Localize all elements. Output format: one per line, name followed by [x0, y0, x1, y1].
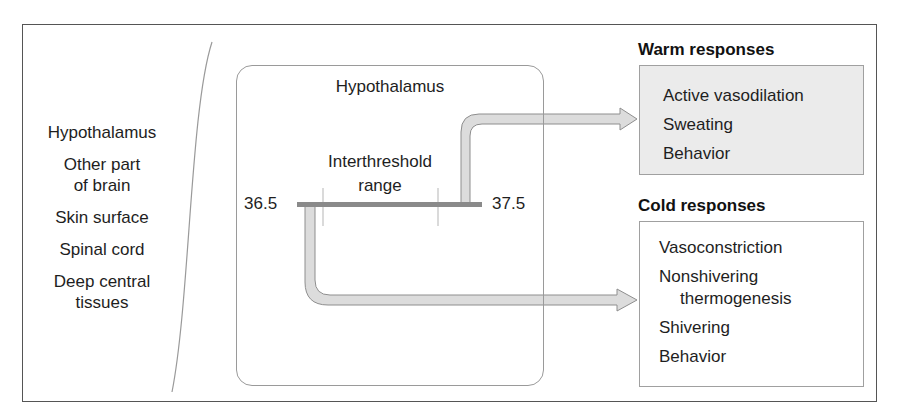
cold-response-item: Vasoconstriction	[659, 237, 863, 259]
warm-response-item: Behavior	[663, 139, 863, 168]
sensor-label: Hypothalamus	[28, 122, 176, 143]
sensor-list: Hypothalamus Other part of brain Skin su…	[28, 122, 176, 324]
cold-response-line: Nonshivering	[659, 267, 758, 286]
warm-response-item: Sweating	[663, 110, 863, 139]
sensor-hypothalamus: Hypothalamus	[28, 122, 176, 143]
bracket-curve	[172, 42, 212, 392]
warm-responses-box: Active vasodilation Sweating Behavior	[639, 65, 864, 175]
cold-responses-box: Vasoconstriction Nonshivering thermogene…	[639, 221, 864, 387]
hypothalamus-title: Hypothalamus	[236, 77, 544, 97]
range-label-line: Interthreshold	[305, 150, 455, 174]
sensor-label: Skin surface	[28, 207, 176, 228]
cold-response-item: Shivering	[659, 317, 863, 339]
high-threshold-value: 37.5	[492, 194, 525, 214]
range-label-line: range	[305, 174, 455, 198]
sensor-other-brain: Other part of brain	[28, 154, 176, 196]
warm-response-item: Active vasodilation	[663, 81, 863, 110]
sensor-skin: Skin surface	[28, 207, 176, 228]
sensor-label: Deep central	[28, 271, 176, 292]
sensor-label: of brain	[28, 175, 176, 196]
hypothalamus-box	[236, 65, 544, 386]
sensor-label: tissues	[28, 292, 176, 313]
sensor-label: Spinal cord	[28, 239, 176, 260]
cold-responses-title: Cold responses	[638, 196, 766, 216]
cold-response-item: Nonshivering thermogenesis	[659, 266, 863, 310]
sensor-label: Other part	[28, 154, 176, 175]
sensor-deep-tissues: Deep central tissues	[28, 271, 176, 313]
sensor-spinal-cord: Spinal cord	[28, 239, 176, 260]
interthreshold-label: Interthreshold range	[305, 150, 455, 198]
low-threshold-value: 36.5	[244, 194, 277, 214]
cold-response-item: Behavior	[659, 346, 863, 368]
warm-responses-title: Warm responses	[638, 40, 774, 60]
cold-response-line: thermogenesis	[659, 288, 863, 310]
